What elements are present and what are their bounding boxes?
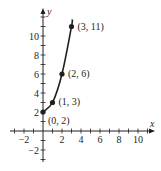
chart: −2246810−2246810 (0, 2)(1, 3)(2, 6)(3, 1…: [0, 0, 161, 171]
x-axis-label: x: [149, 118, 155, 129]
y-tick-label: 8: [34, 50, 39, 61]
data-point: [59, 71, 64, 76]
ticks: −2246810−2246810: [15, 17, 148, 160]
y-axis-label: y: [46, 6, 52, 17]
x-tick-label: 4: [79, 134, 84, 145]
data-point: [69, 24, 74, 29]
data-point-label: (3, 11): [78, 21, 104, 33]
y-tick-label: 2: [34, 107, 39, 118]
x-tick-label: 6: [98, 134, 103, 145]
y-tick-label: 4: [34, 88, 39, 99]
x-tick-label: 10: [133, 134, 143, 145]
y-tick-label: −2: [28, 145, 39, 156]
data-point: [50, 100, 55, 105]
points: (0, 2)(1, 3)(2, 6)(3, 11): [40, 21, 103, 128]
x-tick-label: −2: [19, 134, 30, 145]
data-point: [40, 109, 45, 114]
data-point-label: (0, 2): [48, 115, 70, 127]
x-axis-arrow: [149, 129, 155, 134]
x-tick-label: 8: [117, 134, 122, 145]
x-tick-label: 2: [60, 134, 65, 145]
y-axis-arrow: [41, 8, 46, 14]
y-tick-label: 6: [34, 69, 39, 80]
data-point-label: (1, 3): [59, 96, 81, 108]
y-tick-label: 10: [29, 31, 39, 42]
data-point-label: (2, 6): [68, 68, 90, 80]
